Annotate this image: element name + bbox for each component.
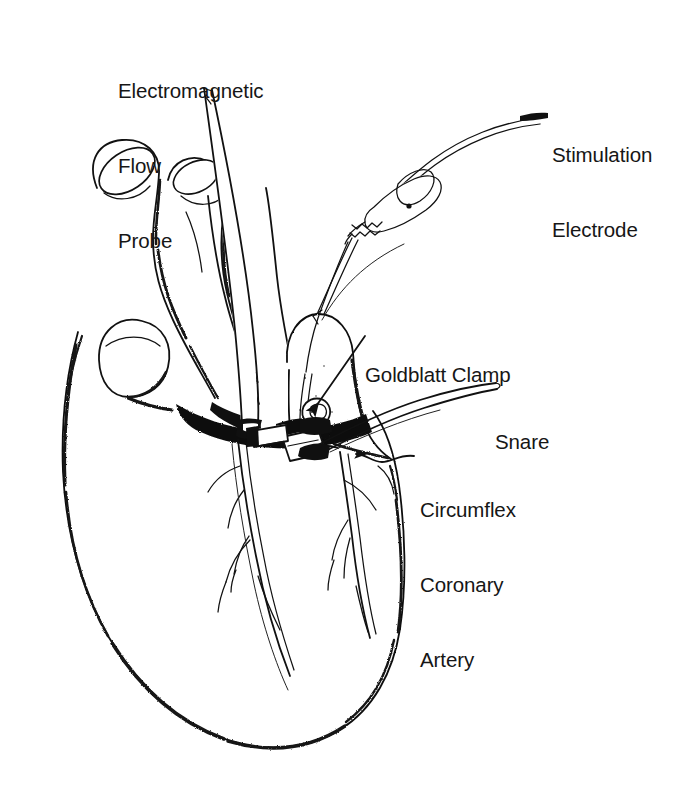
label-line: Probe <box>118 228 263 253</box>
label-electromagnetic-flow-probe: Electromagnetic Flow Probe <box>118 28 263 303</box>
heart-diagram-figure: Electromagnetic Flow Probe Stimulation E… <box>0 0 688 785</box>
label-line: Coronary <box>420 572 516 597</box>
label-line: Electromagnetic <box>118 78 263 103</box>
clip-pivot-dot <box>406 203 411 208</box>
label-stimulation-electrode: Stimulation Electrode <box>552 92 652 292</box>
label-line: Artery <box>420 647 516 672</box>
label-line: Flow <box>118 153 263 178</box>
label-line: Stimulation <box>552 142 652 167</box>
label-line: Goldblatt Clamp <box>365 362 510 387</box>
label-line: Electrode <box>552 217 652 242</box>
label-goldblatt-clamp: Goldblatt Clamp <box>365 312 510 437</box>
label-circumflex-coronary-artery: Circumflex Coronary Artery <box>420 447 516 722</box>
label-line: Circumflex <box>420 497 516 522</box>
